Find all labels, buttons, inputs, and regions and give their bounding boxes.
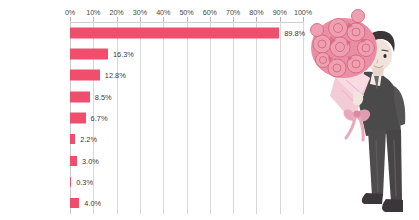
bar-value-label: 16.3% [113,49,134,58]
x-tick-label: 50% [179,8,193,17]
gridline-100% [303,22,304,214]
bar-value-label: 2.2% [80,135,97,144]
bar-row: されて嬉しいと思う 告白はない4.0% [70,193,303,214]
bar-value-label: 12.8% [105,71,126,80]
x-tick-label: 70% [226,8,240,17]
bar-row: 手紙12.8% [70,65,303,86]
bar-row: 直接89.8% [70,22,303,43]
bar-value-label: 6.7% [91,113,108,122]
bar [70,177,71,187]
bar-row: その他0.3% [70,171,303,192]
x-tick-label: 0% [65,8,75,17]
suit-body [358,72,405,212]
bar-row: メール8.5% [70,86,303,107]
x-tick-label: 20% [110,8,124,17]
x-tick-label: 80% [249,8,263,17]
bar-row: 人づて3.0% [70,150,303,171]
bar-value-label: 89.8% [284,28,305,37]
x-tick-label: 90% [273,8,287,17]
bar-row: 電話16.3% [70,43,303,64]
bar-value-label: 0.3% [76,177,93,186]
chart-screenshot: 0%10%20%30%40%50%60%70%80%90%100% 直接89.8… [0,0,419,220]
bar [70,48,108,59]
x-tick-label: 10% [86,8,100,17]
bar-chart: 0%10%20%30%40%50%60%70%80%90%100% 直接89.8… [0,0,312,220]
bar-value-label: 4.0% [84,199,101,208]
x-tick-label: 60% [203,8,217,17]
bar [70,198,79,208]
x-tick-label: 40% [156,8,170,17]
bar-row: SNS(LINE含む)6.7% [70,107,303,128]
plot-area: 0%10%20%30%40%50%60%70%80%90%100% 直接89.8… [70,22,303,214]
bar [70,134,75,144]
bar [70,112,86,123]
bar [70,27,279,38]
tick-mark [303,17,304,22]
bar-value-label: 8.5% [95,92,112,101]
x-tick-label: 30% [133,8,147,17]
bar [70,156,77,166]
bar-row: メッセンジャーアプリ (LINE除く)2.2% [70,129,303,150]
bar [70,91,90,102]
bar-value-label: 3.0% [82,156,99,165]
man-holding-rose-bouquet-illustration [306,0,419,220]
bar [70,70,100,81]
rose-bouquet [311,10,378,79]
